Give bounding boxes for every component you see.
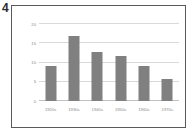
figure-panel: 4 05101520 1920s1930s1940s1950s1960s1970… [0,0,189,136]
bar-group: 1960s [132,24,155,101]
x-axis-tick-label: 1950s [115,107,126,112]
x-axis-tick-label: 1960s [138,107,149,112]
bar [68,36,79,101]
y-axis-tick-label: 10 [31,60,36,65]
bar-group: 1930s [62,24,85,101]
bar-group: 1970s [156,24,179,101]
bar [45,66,56,101]
bar [92,52,103,101]
x-axis-tick-label: 1970s [162,107,173,112]
figure-number: 4 [2,1,9,15]
bar-group: 1940s [86,24,109,101]
bar [115,56,126,101]
x-axis-tick-label: 1940s [92,107,103,112]
y-axis-tick-label: 15 [31,40,36,45]
chart-frame: 05101520 1920s1930s1940s1950s1960s1970s [11,5,186,128]
bar-series: 1920s1930s1940s1950s1960s1970s [39,24,179,101]
bar [162,79,173,101]
x-axis-tick-label: 1920s [45,107,56,112]
bar-group: 1950s [109,24,132,101]
x-axis-tick-label: 1930s [68,107,79,112]
bar-group: 1920s [39,24,62,101]
y-axis-tick-label: 0 [34,98,36,103]
y-axis-tick-label: 5 [34,79,36,84]
y-axis-tick-label: 20 [31,21,36,26]
bar [138,66,149,101]
plot-area: 05101520 1920s1930s1940s1950s1960s1970s [39,24,179,101]
